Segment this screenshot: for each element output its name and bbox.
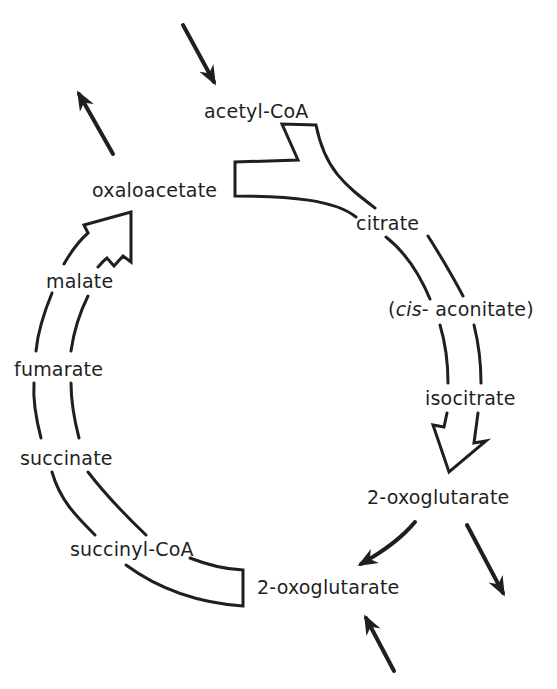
succinate-fumarate-band	[34, 383, 79, 438]
oxoglutarate-output-arrow	[467, 525, 503, 593]
label-oxaloacetate: oxaloacetate	[92, 181, 217, 200]
citrate-aconitate-band	[386, 236, 463, 299]
label-cis-aconitate: (cis- aconitate)	[388, 300, 534, 319]
fumarate-malate-band	[36, 293, 88, 351]
cis-aconitate-suffix: - aconitate)	[422, 298, 534, 320]
label-malate: malate	[46, 272, 113, 291]
label-succinate: succinate	[20, 449, 113, 468]
label-2-oxoglutarate-lower: 2-oxoglutarate	[257, 578, 400, 597]
label-2-oxoglutarate-upper: 2-oxoglutarate	[367, 488, 510, 507]
acetyl-coa-input-arrow	[183, 25, 214, 82]
succinyl-succinate-band	[52, 472, 146, 535]
malate-to-oxaloacetate-arrowhead	[64, 212, 131, 267]
aconitate-isocitrate-band	[440, 325, 481, 383]
oxoglutarate-transfer-arrow	[361, 522, 415, 564]
isocitrate-to-oxoglutarate-arrowhead	[433, 413, 486, 472]
cis-aconitate-prefix: (	[388, 298, 396, 320]
label-succinyl-coa: succinyl-CoA	[70, 540, 194, 559]
cis-aconitate-italic: cis	[396, 298, 422, 320]
label-citrate: citrate	[356, 214, 419, 233]
label-isocitrate: isocitrate	[425, 389, 516, 408]
citrate-synthase-band	[235, 124, 375, 217]
label-fumarate: fumarate	[14, 360, 103, 379]
citric-acid-cycle-diagram: acetyl-CoA oxaloacetate citrate (cis- ac…	[0, 0, 557, 689]
oxoglutarate-dehydrogenase-band	[126, 558, 243, 606]
oxoglutarate-input-arrow	[366, 618, 394, 671]
label-acetyl-coa: acetyl-CoA	[204, 102, 309, 121]
oxaloacetate-output-arrow	[79, 94, 113, 154]
